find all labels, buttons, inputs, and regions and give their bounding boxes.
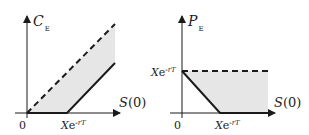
put-bounds-chart: PE Xe-rT 0 Xe-rT S(0) bbox=[150, 13, 301, 132]
put-shaded-region bbox=[182, 71, 268, 113]
call-x-label: S(0) bbox=[119, 95, 146, 110]
put-y-tick-label: Xe-rT bbox=[150, 66, 177, 79]
put-x-label: S(0) bbox=[274, 95, 301, 110]
call-y-label: CE bbox=[33, 13, 50, 33]
put-y-label: PE bbox=[187, 13, 204, 33]
put-x-tick-label: Xe-rT bbox=[214, 119, 241, 132]
option-bounds-diagram: CE 0 Xe-rT S(0) PE Xe-rT 0 Xe-rT S(0) bbox=[0, 0, 309, 135]
call-bounds-chart: CE 0 Xe-rT S(0) bbox=[15, 13, 146, 132]
put-origin-label: 0 bbox=[174, 119, 181, 132]
call-origin-label: 0 bbox=[19, 119, 26, 132]
call-x-tick-label: Xe-rT bbox=[60, 119, 87, 132]
